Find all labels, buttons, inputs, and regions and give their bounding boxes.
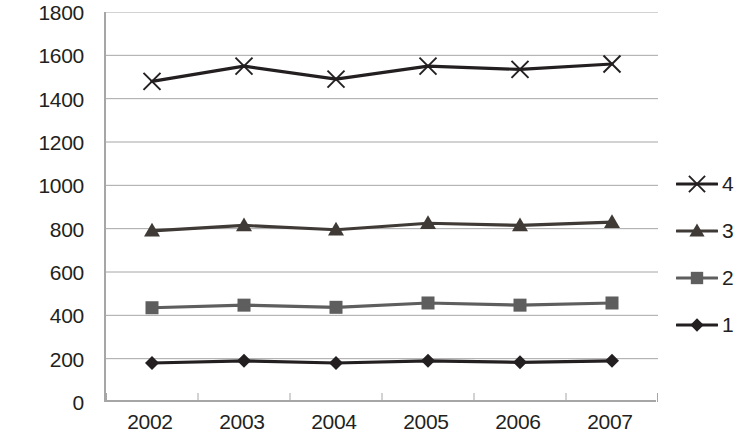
legend-item-label: 4 — [722, 173, 734, 194]
data-point-marker — [605, 354, 619, 368]
data-point-marker — [691, 271, 703, 283]
data-point-marker — [606, 296, 619, 309]
y-axis-labels: 020040060080010001200140016001800 — [0, 0, 96, 446]
x-axis-labels: 200220032004200520062007 — [104, 410, 656, 446]
data-point-marker — [145, 356, 159, 370]
series-line-1 — [152, 361, 612, 363]
y-axis-tick-label: 400 — [50, 305, 84, 326]
legend-diamond-icon — [676, 315, 718, 335]
y-axis-tick-label: 1400 — [38, 88, 84, 109]
y-axis-tick-label: 800 — [50, 218, 84, 239]
legend-triangle-icon — [676, 221, 718, 241]
legend-item-1[interactable]: 1 — [676, 301, 744, 348]
series-line-4 — [152, 64, 612, 81]
plot-area — [104, 12, 656, 402]
legend-square-icon — [676, 268, 718, 288]
legend-item-4[interactable]: 4 — [676, 160, 744, 207]
y-axis-tick-label: 200 — [50, 348, 84, 369]
x-axis-tick-label: 2007 — [587, 410, 633, 434]
data-point-marker — [421, 354, 435, 368]
data-point-marker — [422, 296, 435, 309]
legend-item-label: 1 — [722, 314, 734, 335]
data-point-marker — [329, 356, 343, 370]
x-axis-tick-label: 2002 — [127, 410, 173, 434]
x-axis-tick-label: 2003 — [219, 410, 265, 434]
data-point-marker — [237, 354, 251, 368]
data-point-marker — [330, 301, 343, 314]
legend-item-3[interactable]: 3 — [676, 207, 744, 254]
series-line-3 — [152, 222, 612, 231]
plot-svg — [106, 12, 658, 402]
y-axis-tick-label: 1000 — [38, 175, 84, 196]
y-axis-tick-label: 1800 — [38, 2, 84, 23]
x-axis-tick-label: 2006 — [495, 410, 541, 434]
data-point-marker — [238, 299, 251, 312]
data-point-marker — [690, 318, 703, 331]
legend: 4321 — [676, 160, 744, 348]
legend-item-2[interactable]: 2 — [676, 254, 744, 301]
data-point-marker — [514, 299, 527, 312]
legend-x-cross-icon — [676, 174, 718, 194]
y-axis-tick-label: 0 — [73, 392, 84, 413]
y-axis-tick-label: 1600 — [38, 45, 84, 66]
line-chart: 020040060080010001200140016001800 200220… — [0, 0, 744, 446]
y-axis-tick-label: 1200 — [38, 132, 84, 153]
legend-item-label: 2 — [722, 267, 734, 288]
y-axis-tick-label: 600 — [50, 262, 84, 283]
data-point-marker — [146, 301, 159, 314]
data-point-marker — [513, 355, 527, 369]
series-line-2 — [152, 303, 612, 308]
x-axis-tick-label: 2005 — [403, 410, 449, 434]
x-axis-tick-label: 2004 — [311, 410, 357, 434]
legend-item-label: 3 — [722, 220, 734, 241]
